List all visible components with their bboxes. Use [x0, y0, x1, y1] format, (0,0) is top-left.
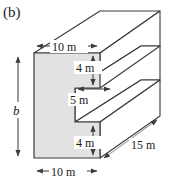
dimension-label-height: b [13, 104, 20, 117]
dimension-label-notch-depth: 5 m [70, 94, 88, 106]
panel-label: (b) [3, 5, 21, 20]
dimension-label-depth: 15 m [131, 139, 155, 151]
dimension-label-upper-flange: 4 m [76, 62, 94, 74]
figure-panel-b: (b) 10 m 4 m 5 m 4 m 10 m 15 m b [0, 0, 174, 186]
dimension-label-bottom-width: 10 m [51, 166, 75, 178]
dimension-label-lower-flange: 4 m [76, 137, 94, 149]
dimension-label-top-width: 10 m [52, 41, 76, 53]
